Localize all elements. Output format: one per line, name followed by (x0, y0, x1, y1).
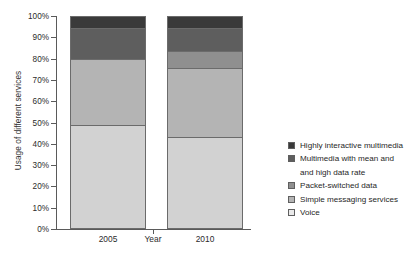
legend-swatch-icon (288, 155, 295, 162)
legend-item[interactable]: Packet-switched data (288, 179, 416, 192)
legend-swatch-spacer (288, 169, 295, 176)
y-tick-mark (51, 80, 56, 81)
legend-label: Highly interactive multimedia (300, 139, 403, 152)
chart-legend: Highly interactive multimediaMultimedia … (288, 139, 416, 219)
legend-label: Packet-switched data (300, 179, 377, 192)
stacked-bar-chart: Usage of different services 100%90%80%70… (0, 0, 419, 260)
legend-swatch-icon (288, 209, 295, 216)
legend-label: Simple messaging services (300, 193, 398, 206)
legend-swatch-icon (288, 142, 295, 149)
bar-segment (168, 137, 242, 228)
y-tick-label: 80% (33, 54, 49, 63)
bar-segment (71, 28, 145, 60)
legend-item[interactable]: Voice (288, 206, 416, 219)
y-tick-mark (51, 59, 56, 60)
bar-segment (71, 125, 145, 228)
bar-segment (168, 51, 242, 68)
y-tick-mark (51, 37, 56, 38)
y-tick-label: 20% (33, 182, 49, 191)
legend-label: and high data rate (300, 166, 365, 179)
legend-label: Voice (300, 206, 320, 219)
y-tick-label: 90% (33, 33, 49, 42)
bar-segment (168, 28, 242, 51)
y-tick-mark (51, 165, 56, 166)
legend-label: Multimedia with mean and (300, 152, 394, 165)
legend-item[interactable]: Highly interactive multimedia (288, 139, 416, 152)
legend-item[interactable]: Multimedia with mean and (288, 152, 416, 165)
y-axis-title: Usage of different services (14, 31, 23, 211)
y-tick-mark (51, 123, 56, 124)
y-tick-mark (51, 101, 56, 102)
x-axis-label-2010: 2010 (167, 234, 243, 244)
y-axis-line (56, 16, 57, 230)
legend-swatch-icon (288, 196, 295, 203)
bar-2005 (70, 16, 146, 229)
y-tick-label: 40% (33, 139, 49, 148)
y-tick-mark (51, 229, 56, 230)
legend-swatch-icon (288, 182, 295, 189)
y-tick-label: 60% (33, 97, 49, 106)
y-tick-label: 70% (33, 75, 49, 84)
y-tick-mark (51, 186, 56, 187)
legend-item[interactable]: Simple messaging services (288, 193, 416, 206)
y-tick-label: 10% (33, 203, 49, 212)
y-tick-mark (51, 16, 56, 17)
bar-segment (71, 17, 145, 28)
y-tick-mark (51, 144, 56, 145)
bar-2010 (167, 16, 243, 229)
y-tick-label: 30% (33, 161, 49, 170)
y-tick-label: 50% (33, 118, 49, 127)
plot-area: 100%90%80%70%60%50%40%30%20%10%0% 2005 Y… (56, 16, 251, 230)
bar-segment (71, 59, 145, 124)
y-tick-mark (51, 208, 56, 209)
legend-item[interactable]: and high data rate (288, 166, 416, 179)
bar-segment (168, 17, 242, 28)
bar-segment (168, 68, 242, 138)
y-tick-label: 100% (28, 12, 49, 21)
y-tick-label: 0% (37, 225, 49, 234)
